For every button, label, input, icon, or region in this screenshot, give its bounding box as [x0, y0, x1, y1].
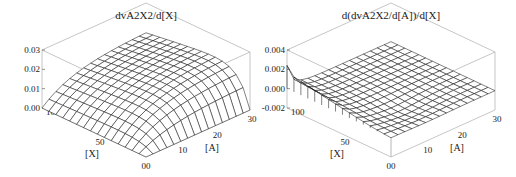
x-tick-label: 100	[291, 107, 305, 117]
y-tick-label: 30	[493, 114, 503, 124]
z-tick-label: 0.000	[265, 84, 286, 94]
z-tick-label: 0.004	[265, 45, 286, 55]
z-tick-label: 0.01	[24, 84, 40, 94]
x-tick-label: 50	[96, 137, 106, 147]
y-axis-label: [A]	[450, 142, 464, 153]
z-tick-label: 0.00	[24, 103, 40, 113]
plot-title: dvA2X2/d[X]	[115, 9, 177, 21]
z-tick-label: 0.02	[24, 64, 40, 74]
plot-1: 0.030.020.010.001005000102030[X][A]dvA2X…	[24, 3, 257, 171]
z-tick-label: -0.002	[262, 103, 285, 113]
y-tick-label: 20	[458, 130, 468, 140]
x-tick-label: 50	[341, 137, 351, 147]
plot-title: d(dvA2X2/d[A])/d[X]	[342, 9, 440, 22]
y-tick-label: 30	[248, 114, 258, 124]
y-tick-label: 10	[178, 145, 188, 155]
surface-mesh	[287, 42, 495, 138]
z-tick-label: 0.002	[265, 64, 285, 74]
z-tick-label: 0.03	[24, 45, 40, 55]
x-axis-label: [X]	[330, 148, 344, 159]
y-tick-label: 10	[423, 145, 433, 155]
y-axis-label: [A]	[205, 142, 219, 153]
figure: 0.030.020.010.001005000102030[X][A]dvA2X…	[0, 0, 516, 177]
y-tick-label: 20	[213, 130, 223, 140]
x-axis-label: [X]	[85, 148, 99, 159]
plot-2: 0.0040.0020.000-0.0021005000102030[X][A]…	[262, 3, 502, 171]
x-tick-label: 00	[387, 161, 397, 171]
x-tick-label: 00	[142, 161, 152, 171]
